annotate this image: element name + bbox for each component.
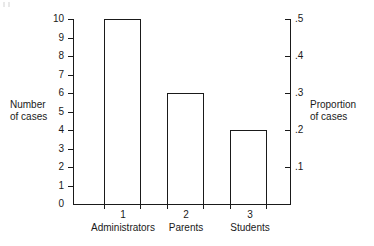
scan-artifact [3, 2, 13, 7]
y-axis-left-title-line2: of cases [10, 111, 47, 123]
y-axis-left-tick-4 [68, 130, 74, 131]
x-axis-category-name-3: Students [207, 222, 293, 233]
y-axis-right-label-p2: .2 [295, 125, 317, 135]
y-axis-left-label-8: 8 [40, 51, 64, 61]
y-axis-left-title: Number of cases [10, 99, 47, 123]
y-axis-left-label-3: 3 [40, 144, 64, 154]
y-axis-left-tick-3 [68, 149, 74, 150]
y-axis-right-title-line2: of cases [310, 111, 356, 123]
y-axis-left-tick-2 [68, 167, 74, 168]
bar-administrators [104, 19, 141, 205]
y-axis-left-tick-10 [68, 19, 74, 20]
x-axis-category-students: 3 Students [207, 209, 293, 233]
y-axis-left-label-4: 4 [40, 125, 64, 135]
y-axis-left-label-6: 6 [40, 88, 64, 98]
y-axis-right-title: Proportion of cases [310, 99, 356, 123]
y-axis-right-label-p5: .5 [295, 14, 317, 24]
y-axis-left-title-line1: Number [10, 99, 47, 111]
x-axis-category-number-3: 3 [207, 209, 293, 220]
y-axis-left-tick-6 [68, 93, 74, 94]
y-axis-left-tick-5 [68, 112, 74, 113]
y-axis-right-label-p4: .4 [295, 51, 317, 61]
y-axis-left-tick-8 [68, 56, 74, 57]
y-axis-right-tick-p5 [285, 19, 291, 20]
y-axis-left-label-1: 1 [40, 181, 64, 191]
y-axis-left-tick-7 [68, 75, 74, 76]
y-axis-left-tick-1 [68, 186, 74, 187]
bar-parents [167, 93, 204, 205]
y-axis-left-label-0: 0 [40, 199, 64, 209]
y-axis-right-title-line1: Proportion [310, 99, 356, 111]
bar-chart-figure: 10 9 8 7 6 5 4 3 2 1 0 .5 .4 .3 .2 .1 1 … [0, 0, 374, 246]
y-axis-right-label-p1: .1 [295, 162, 317, 172]
y-axis-left-label-10: 10 [40, 14, 64, 24]
y-axis-right-line [290, 19, 291, 205]
y-axis-left-label-7: 7 [40, 70, 64, 80]
bar-students [230, 130, 267, 205]
y-axis-right-tick-p2 [285, 130, 291, 131]
y-axis-left-label-9: 9 [40, 33, 64, 43]
y-axis-left-label-2: 2 [40, 162, 64, 172]
y-axis-right-tick-p3 [285, 93, 291, 94]
y-axis-right-tick-p4 [285, 56, 291, 57]
y-axis-right-label-p3: .3 [295, 88, 317, 98]
y-axis-left-tick-9 [68, 38, 74, 39]
y-axis-right-tick-p1 [285, 167, 291, 168]
